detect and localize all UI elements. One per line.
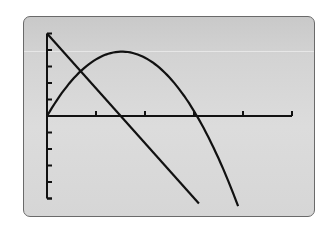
axes (47, 34, 292, 199)
parabola-graph (47, 52, 238, 206)
line-graph (47, 34, 199, 204)
graph-plot (0, 0, 329, 230)
curves (47, 34, 238, 207)
